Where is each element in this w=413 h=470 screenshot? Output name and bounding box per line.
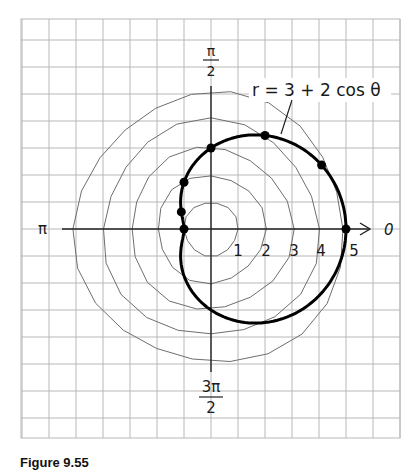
data-point: [317, 161, 326, 170]
angle-label-3pi-over-2-num: 3π: [202, 378, 221, 396]
angle-label-pi-over-2-den: 2: [207, 63, 216, 79]
radial-circle-5: [73, 92, 343, 362]
data-point: [342, 225, 351, 234]
figure-caption: Figure 9.55: [20, 455, 89, 470]
data-point: [180, 178, 189, 187]
data-point: [180, 225, 189, 234]
curve-label-pointer: [281, 100, 292, 134]
angle-label-3pi-over-2-den: 2: [206, 399, 216, 417]
data-point: [177, 207, 186, 216]
radial-label-4: 4: [316, 242, 326, 260]
radial-label-3: 3: [289, 242, 299, 260]
radial-circle-2: [158, 176, 266, 284]
angle-label-pi: π: [38, 220, 47, 238]
data-point: [261, 131, 270, 140]
radial-label-2: 2: [261, 242, 271, 260]
polar-axes: [62, 86, 370, 372]
plotted-points: [177, 131, 351, 234]
angle-label-pi-over-2-num: π: [207, 43, 216, 59]
data-point: [207, 144, 216, 153]
curve-label: r = 3 + 2 cos θ: [252, 80, 381, 100]
radial-label-1: 1: [233, 242, 243, 260]
radial-circles: [73, 92, 343, 362]
radial-label-5: 5: [349, 242, 359, 260]
angle-label-0: 0: [384, 221, 394, 239]
